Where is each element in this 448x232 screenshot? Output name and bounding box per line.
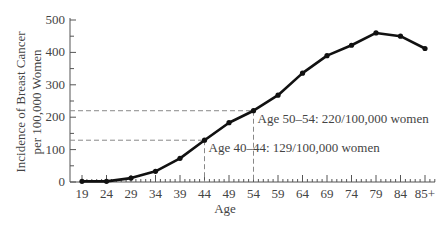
chart-svg: 0100200300400500 19242934394449545964697…: [0, 0, 448, 232]
x-axis-label: Age: [214, 201, 236, 216]
x-tick-label: 49: [223, 186, 236, 201]
x-tick-label: 59: [272, 186, 285, 201]
x-tick-label: 84: [394, 186, 408, 201]
y-tick-label: 400: [46, 44, 66, 59]
y-tick-label: 500: [46, 12, 66, 27]
x-tick-label: 74: [345, 186, 359, 201]
x-tick-label: 54: [247, 186, 261, 201]
data-point: [128, 176, 133, 181]
y-tick-label: 100: [46, 142, 66, 157]
x-tick-label: 34: [149, 186, 163, 201]
annotation-label: Age 40–44: 129/100,000 women: [209, 140, 381, 155]
x-tick-label: 85+: [415, 186, 435, 201]
data-point: [373, 30, 378, 35]
data-point: [398, 34, 403, 39]
data-point: [349, 43, 354, 48]
breast-cancer-incidence-chart: 0100200300400500 19242934394449545964697…: [0, 0, 448, 232]
data-point: [202, 138, 207, 143]
data-point: [177, 156, 182, 161]
y-axis-label-line1: Incidence of Breast Cancer: [13, 31, 28, 173]
data-point: [300, 71, 305, 76]
data-point: [275, 93, 280, 98]
y-tick-label: 200: [46, 109, 66, 124]
data-point: [324, 53, 329, 58]
y-tick-label: 300: [46, 77, 66, 92]
x-tick-label: 69: [321, 186, 334, 201]
data-point: [153, 169, 158, 174]
data-point: [422, 46, 427, 51]
y-axis-label-line2: per 100,000 Women: [29, 49, 44, 155]
annotation-label: Age 50–54: 220/100,000 women: [258, 111, 430, 126]
x-tick-label: 24: [100, 186, 114, 201]
y-axis: 0100200300400500: [46, 12, 77, 189]
x-tick-label: 39: [174, 186, 187, 201]
x-tick-label: 44: [198, 186, 212, 201]
data-point: [79, 179, 84, 184]
data-point: [226, 120, 231, 125]
y-tick-label: 0: [59, 174, 66, 189]
data-point: [251, 108, 256, 113]
x-tick-label: 64: [296, 186, 310, 201]
x-tick-label: 79: [370, 186, 383, 201]
x-tick-label: 19: [76, 186, 89, 201]
x-tick-label: 29: [125, 186, 138, 201]
data-point: [104, 179, 109, 184]
